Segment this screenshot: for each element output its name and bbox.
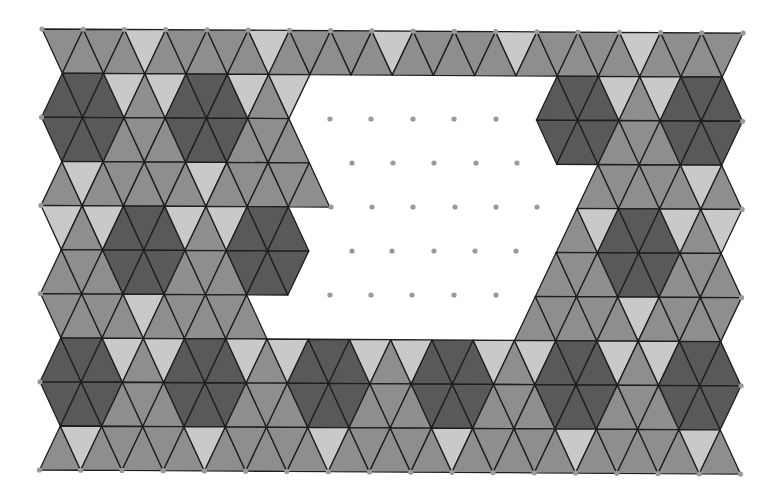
lattice-point-dot: [655, 471, 660, 476]
lattice-point-dot: [161, 468, 166, 473]
lattice-point-dot: [573, 470, 578, 475]
hole-lattice-dot: [473, 160, 478, 165]
lattice-point-dot: [408, 470, 413, 475]
lattice-point-dot: [367, 469, 372, 474]
hole-lattice-dot: [431, 160, 436, 165]
hole-lattice-dot: [534, 204, 539, 209]
hole-lattice-dot: [513, 248, 518, 253]
lattice-point-dot: [122, 27, 127, 32]
hole-lattice-dot: [493, 292, 498, 297]
lattice-point-dot: [202, 468, 207, 473]
hole-lattice-dot: [328, 204, 333, 209]
lattice-point-dot: [78, 468, 83, 473]
lattice-point-dot: [697, 471, 702, 476]
hole-lattice-dot: [493, 204, 498, 209]
lattice-point-dot: [738, 471, 743, 476]
lattice-point-dot: [39, 115, 44, 120]
lattice-point-dot: [38, 203, 43, 208]
lattice-point-dot: [411, 29, 416, 34]
lattice-point-dot: [37, 379, 42, 384]
hole-lattice-dot: [410, 116, 415, 121]
lattice-point-dot: [328, 28, 333, 33]
hole-lattice-dot: [369, 204, 374, 209]
lattice-point-dot: [699, 30, 704, 35]
lattice-point-dot: [246, 28, 251, 33]
lattice-point-dot: [204, 27, 209, 32]
hole-lattice-dot: [349, 160, 354, 165]
lattice-point-dot: [738, 383, 743, 388]
lattice-point-dot: [617, 30, 622, 35]
triangle-tiling-diagram: [0, 0, 776, 498]
hole-lattice-dot: [368, 116, 373, 121]
hole-lattice-dot: [431, 248, 436, 253]
lattice-point-dot: [658, 30, 663, 35]
hole-lattice-dot: [451, 116, 456, 121]
hole-lattice-dot: [409, 292, 414, 297]
lattice-point-dot: [243, 469, 248, 474]
lattice-point-dot: [326, 469, 331, 474]
lattice-point-dot: [493, 29, 498, 34]
lattice-point-dot: [740, 30, 745, 35]
lattice-point-dot: [532, 470, 537, 475]
lattice-point-dot: [287, 28, 292, 33]
hole-lattice-dot: [493, 116, 498, 121]
hole-lattice-dot: [451, 292, 456, 297]
lattice-point-dot: [81, 27, 86, 32]
lattice-point-dot: [575, 29, 580, 34]
hole-lattice-dot: [452, 204, 457, 209]
lattice-point-dot: [163, 27, 168, 32]
lattice-point-dot: [119, 468, 124, 473]
lattice-point-dot: [38, 291, 43, 296]
lattice-point-dot: [614, 471, 619, 476]
lattice-point-dot: [739, 207, 744, 212]
lattice-point-dot: [369, 28, 374, 33]
lattice-point-dot: [490, 470, 495, 475]
lattice-point-dot: [740, 119, 745, 124]
lattice-point-dot: [739, 295, 744, 300]
lattice-point-dot: [452, 29, 457, 34]
hole-lattice-dot: [327, 116, 332, 121]
lattice-point-dot: [284, 469, 289, 474]
hole-lattice-dot: [368, 292, 373, 297]
hole-lattice-dot: [390, 160, 395, 165]
hole-lattice-dot: [389, 248, 394, 253]
lattice-point-dot: [39, 26, 44, 31]
lattice-point-dot: [534, 29, 539, 34]
lattice-point-dot: [449, 470, 454, 475]
hole-lattice-dot: [410, 204, 415, 209]
hole-lattice-dot: [514, 160, 519, 165]
hole-lattice-dot: [472, 248, 477, 253]
lattice-point-dot: [37, 467, 42, 472]
hole-lattice-dot: [349, 248, 354, 253]
hole-lattice-dot: [327, 292, 332, 297]
